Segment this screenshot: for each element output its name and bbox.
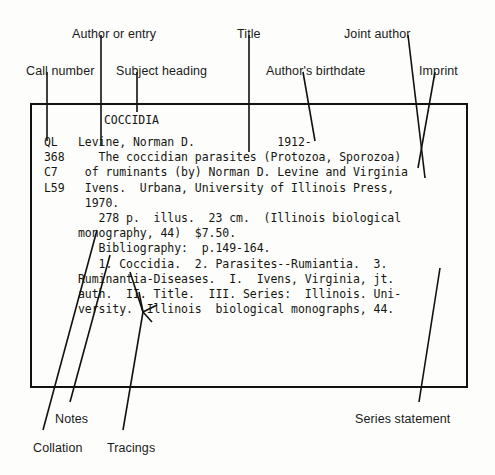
callout-label-collation: Collation [33, 441, 83, 455]
callout-label-joint-author: Joint author [344, 27, 411, 41]
catalog-card: COCCIDIA QL 368 C7 L59 Levine, Norman D.… [30, 103, 468, 388]
card-body-text: Levine, Norman D. 1912- The coccidian pa… [78, 135, 408, 317]
callout-label-subject-heading: Subject heading [116, 64, 207, 78]
callout-label-call-number: Call number [26, 64, 95, 78]
callout-label-title: Title [237, 27, 261, 41]
callout-label-series-statement: Series statement [355, 412, 450, 426]
callout-label-notes: Notes [55, 412, 88, 426]
callout-label-authors-birthdate: Author's birthdate [266, 64, 365, 78]
diagram-canvas: Author or entry Title Joint author Call … [0, 0, 495, 475]
card-call-number: QL 368 C7 L59 [44, 135, 65, 196]
callout-label-tracings: Tracings [107, 441, 155, 455]
callout-label-imprint: Imprint [419, 64, 458, 78]
card-subject-heading: COCCIDIA [104, 113, 159, 127]
callout-label-author-or-entry: Author or entry [72, 27, 156, 41]
